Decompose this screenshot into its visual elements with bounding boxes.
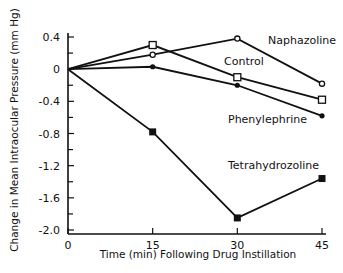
y-tick-label: -0.4	[39, 95, 60, 108]
data-point-tetrahydrozoline	[319, 175, 326, 182]
series-label-control: Control	[224, 55, 264, 68]
y-tick-label: -1.6	[39, 192, 60, 205]
data-point-naphazoline	[319, 81, 324, 86]
series-label-naphazoline: Naphazoline	[268, 34, 336, 47]
y-tick-label: 0.4	[43, 31, 61, 44]
data-point-control	[234, 74, 241, 81]
series-line-phenylephrine	[68, 67, 322, 116]
data-point-tetrahydrozoline	[149, 128, 156, 135]
data-point-control	[319, 96, 326, 103]
x-tick-label: 45	[315, 239, 329, 252]
y-tick-label: -0.8	[39, 128, 60, 141]
series-line-control	[68, 45, 322, 100]
series-label-phenylephrine: Phenylephrine	[228, 113, 307, 126]
data-point-phenylephrine	[150, 64, 155, 69]
y-tick-label: -1.2	[39, 160, 60, 173]
x-axis-title: Time (min) Following Drug Instillation	[99, 248, 297, 260]
y-tick-label: -2.0	[39, 224, 60, 237]
data-point-control	[149, 42, 156, 49]
data-point-naphazoline	[235, 36, 240, 41]
data-point-phenylephrine	[319, 113, 324, 118]
series-line-tetrahydrozoline	[68, 69, 322, 218]
series-label-tetrahydrozoline: Tetrahydrozoline	[227, 159, 319, 172]
data-point-tetrahydrozoline	[234, 214, 241, 221]
y-axis-title: Change in Mean Intraocular Pressure (mm …	[8, 8, 20, 252]
data-point-naphazoline	[150, 52, 155, 57]
chart: 0153045 0.40-0.4-0.8-1.2-1.6-2.0 Naphazo…	[0, 0, 343, 273]
x-tick-label: 0	[65, 239, 72, 252]
y-tick-label: 0	[53, 63, 60, 76]
series-lines	[68, 39, 322, 218]
data-point-phenylephrine	[235, 83, 240, 88]
